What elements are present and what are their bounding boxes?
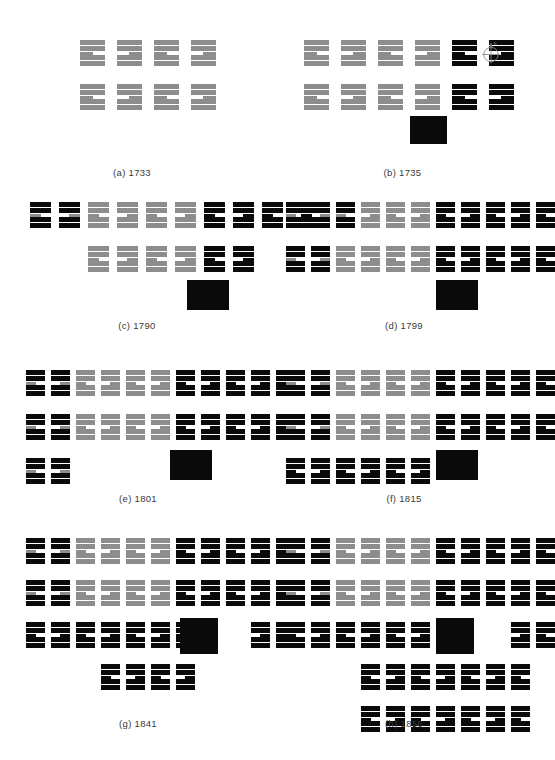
lot-undeveloped bbox=[154, 90, 179, 95]
lot-developed bbox=[452, 99, 477, 104]
lot-developed bbox=[151, 685, 170, 690]
lot-developed bbox=[311, 420, 330, 425]
lot-undeveloped bbox=[191, 46, 216, 51]
lot-developed bbox=[101, 664, 120, 669]
lot-undeveloped bbox=[117, 90, 142, 95]
lot-developed bbox=[286, 580, 305, 585]
city-block bbox=[304, 84, 329, 110]
lot-undeveloped bbox=[336, 544, 355, 549]
lot-developed bbox=[311, 464, 330, 469]
lot-developed bbox=[286, 202, 305, 207]
lot-developed bbox=[76, 643, 95, 648]
lot-developed bbox=[536, 592, 546, 595]
city-block bbox=[411, 580, 430, 606]
lot-developed bbox=[486, 252, 505, 257]
lot-undeveloped bbox=[420, 426, 430, 429]
lot-undeveloped bbox=[386, 391, 405, 396]
lot-undeveloped bbox=[386, 592, 396, 595]
city-block bbox=[486, 538, 505, 564]
lot-developed bbox=[26, 643, 45, 648]
lot-developed bbox=[486, 385, 505, 390]
lot-developed bbox=[286, 429, 305, 434]
lot-undeveloped bbox=[386, 586, 405, 591]
lot-developed bbox=[361, 712, 380, 717]
lot-developed bbox=[226, 382, 236, 385]
city-block bbox=[126, 664, 145, 690]
lot-undeveloped bbox=[361, 553, 380, 558]
lot-undeveloped bbox=[26, 550, 36, 553]
lot-developed bbox=[311, 643, 330, 648]
lot-undeveloped bbox=[336, 267, 355, 272]
lot-developed bbox=[486, 223, 505, 228]
lot-developed bbox=[395, 676, 405, 679]
lot-undeveloped bbox=[361, 580, 380, 585]
lot-undeveloped bbox=[386, 252, 405, 257]
lot-undeveloped bbox=[110, 382, 120, 385]
city-block bbox=[51, 458, 70, 484]
lot-undeveloped bbox=[101, 553, 120, 558]
lot-undeveloped bbox=[154, 105, 179, 110]
lot-developed bbox=[486, 664, 505, 669]
lot-developed bbox=[176, 391, 195, 396]
panel-caption-a: (a) 1733 bbox=[12, 167, 252, 178]
lot-developed bbox=[386, 712, 405, 717]
lot-developed bbox=[436, 435, 455, 440]
lot-undeveloped bbox=[101, 376, 120, 381]
city-block bbox=[411, 538, 430, 564]
lot-developed bbox=[286, 420, 305, 425]
lot-developed bbox=[386, 470, 396, 473]
lot-developed bbox=[262, 214, 273, 217]
lot-developed bbox=[501, 96, 514, 99]
lot-developed bbox=[536, 643, 555, 648]
lot-developed bbox=[176, 385, 195, 390]
city-block bbox=[88, 246, 109, 272]
lot-undeveloped bbox=[386, 267, 405, 272]
lot-developed bbox=[361, 473, 380, 478]
city-block bbox=[251, 580, 270, 606]
city-block bbox=[251, 538, 270, 564]
lot-developed bbox=[204, 261, 225, 266]
city-block bbox=[341, 40, 366, 66]
lot-developed bbox=[436, 670, 455, 675]
lot-developed bbox=[411, 664, 430, 669]
city-block bbox=[80, 40, 105, 66]
lot-developed bbox=[176, 538, 195, 543]
lot-undeveloped bbox=[80, 105, 105, 110]
city-block bbox=[511, 370, 530, 396]
lot-undeveloped bbox=[60, 382, 70, 385]
lot-undeveloped bbox=[26, 592, 36, 595]
lot-developed bbox=[311, 217, 330, 222]
lot-developed bbox=[361, 479, 380, 484]
lot-developed bbox=[286, 637, 305, 642]
city-block bbox=[361, 458, 380, 484]
lot-developed bbox=[461, 595, 480, 600]
lot-developed bbox=[204, 217, 225, 222]
lot-developed bbox=[361, 464, 380, 469]
lot-developed bbox=[452, 46, 477, 51]
lot-undeveloped bbox=[411, 435, 430, 440]
lot-developed bbox=[226, 580, 245, 585]
lot-developed bbox=[411, 464, 430, 469]
lot-developed bbox=[204, 208, 225, 213]
lot-developed bbox=[461, 376, 480, 381]
lot-developed bbox=[26, 634, 36, 637]
lot-undeveloped bbox=[88, 261, 109, 266]
lot-developed bbox=[436, 592, 446, 595]
lot-undeveloped bbox=[88, 202, 109, 207]
city-block bbox=[336, 370, 355, 396]
lot-developed bbox=[511, 246, 530, 251]
lot-undeveloped bbox=[361, 385, 380, 390]
lot-developed bbox=[452, 40, 477, 45]
lot-undeveloped bbox=[320, 426, 330, 429]
lot-developed bbox=[461, 223, 480, 228]
lot-developed bbox=[51, 391, 70, 396]
lot-developed bbox=[76, 637, 95, 642]
lot-undeveloped bbox=[336, 601, 355, 606]
lot-developed bbox=[511, 559, 530, 564]
city-block bbox=[311, 580, 330, 606]
lot-developed bbox=[361, 628, 380, 633]
map-panel-c: (c) 1790 bbox=[12, 192, 262, 332]
lot-undeveloped bbox=[26, 470, 36, 473]
lot-developed bbox=[176, 685, 195, 690]
lot-undeveloped bbox=[420, 550, 430, 553]
